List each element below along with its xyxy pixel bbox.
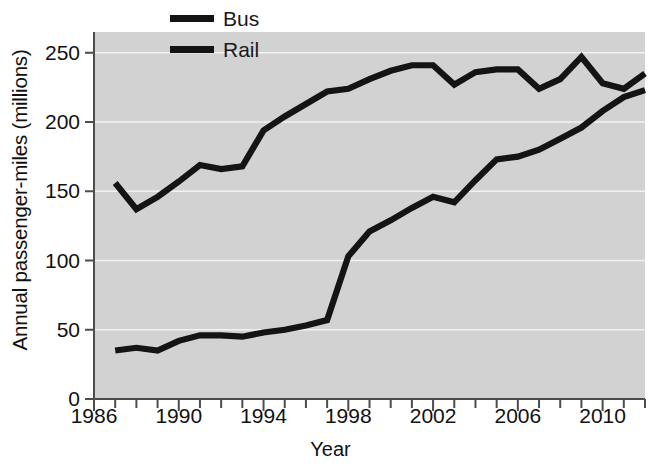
legend-label: Rail [223,39,259,60]
chart-legend: BusRail [170,6,259,68]
x-axis-title: Year [0,438,661,461]
chart-container: Annual passenger-miles (millions) 050100… [0,0,661,469]
legend-line-swatch-icon [170,15,214,22]
legend-line-swatch-icon [170,46,214,53]
legend-label: Bus [223,8,259,29]
plot-area [0,0,661,469]
legend-item: Rail [170,37,259,61]
legend-item: Bus [170,6,259,30]
